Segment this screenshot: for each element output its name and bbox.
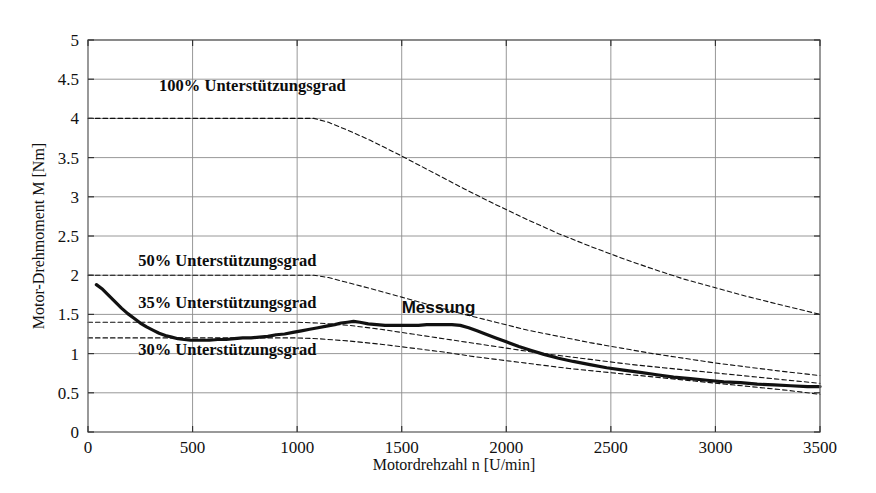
y-tick-label: 1 [71, 345, 80, 364]
torque-speed-chart: 00.511.522.533.544.550500100015002000250… [0, 0, 876, 493]
x-tick-label: 1000 [280, 438, 314, 457]
y-tick-label: 0 [71, 423, 80, 442]
y-tick-label: 3.5 [58, 149, 79, 168]
y-tick-label: 1.5 [58, 305, 79, 324]
y-tick-label: 2 [71, 266, 80, 285]
y-axis-title: Motor-Drehmoment M [Nm] [30, 143, 47, 329]
x-axis-title: Motordrehzahl n [U/min] [373, 456, 536, 473]
chart-annotation: 50% Unterstützungsgrad [138, 251, 316, 270]
y-tick-label: 4 [71, 109, 80, 128]
y-tick-label: 3 [71, 188, 80, 207]
y-tick-label: 4.5 [58, 70, 79, 89]
x-tick-label: 0 [84, 438, 93, 457]
x-tick-label: 3500 [803, 438, 837, 457]
x-tick-label: 1500 [385, 438, 419, 457]
x-tick-label: 500 [180, 438, 206, 457]
x-tick-label: 2500 [594, 438, 628, 457]
x-tick-label: 3000 [698, 438, 732, 457]
chart-annotation: 35% Unterstützungsgrad [138, 293, 316, 312]
chart-figure: 00.511.522.533.544.550500100015002000250… [0, 0, 876, 493]
chart-background [0, 0, 876, 493]
chart-annotation: 100% Unterstützungsgrad [159, 76, 346, 95]
y-tick-label: 2.5 [58, 227, 79, 246]
y-tick-label: 5 [71, 31, 80, 50]
x-tick-label: 2000 [489, 438, 523, 457]
chart-annotation: Messung [402, 298, 476, 317]
y-tick-label: 0.5 [58, 384, 79, 403]
chart-annotation: 30% Unterstützungsgrad [138, 340, 316, 359]
